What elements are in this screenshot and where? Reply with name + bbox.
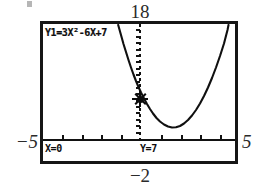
- window-ymin-label: −2: [108, 166, 172, 185]
- trace-x-value: X=0: [45, 143, 62, 154]
- window-ymax-label: 18: [108, 2, 172, 21]
- trace-point-marker: [137, 96, 144, 103]
- window-xmin-label: −5: [2, 132, 38, 151]
- curve-path: [118, 25, 228, 128]
- window-xmax-label: 5: [242, 132, 260, 151]
- trace-y-value: Y=7: [140, 143, 157, 154]
- trace-readout-bar: X=0 Y=7: [43, 141, 235, 161]
- scan-artifact-speck: [27, 1, 32, 7]
- graph-plot-area: Y1=3X²-6X+7 X=0 Y=7: [43, 24, 235, 161]
- calculator-graph-screen[interactable]: Y1=3X²-6X+7 X=0 Y=7: [40, 21, 238, 164]
